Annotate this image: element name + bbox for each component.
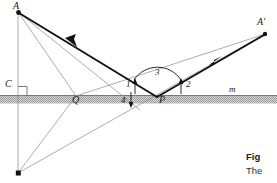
- label-point-P: P: [159, 95, 165, 105]
- mirror-surface-group: [0, 96, 277, 104]
- label-point-Q: Q: [72, 95, 79, 105]
- label-angle-1: 1: [126, 80, 131, 89]
- label-surface-m: m: [229, 85, 236, 94]
- label-point-C: C: [5, 79, 12, 89]
- ray-arrowheads: [65, 34, 222, 65]
- caption-body: The: [246, 166, 262, 177]
- line-Aimage-to-Q: [18, 96, 76, 173]
- right-angle-marker: [18, 87, 27, 96]
- tick-angle-4-head: [129, 102, 134, 108]
- label-angle-2: 2: [186, 80, 191, 89]
- label-angle-3: 3: [155, 68, 160, 77]
- label-angle-4: 4: [121, 96, 126, 105]
- caption-title: Fig: [246, 152, 260, 163]
- label-point-A-prime: A': [257, 17, 265, 27]
- incident-ray-A-to-P: [19, 13, 157, 97]
- label-point-A: A: [13, 1, 19, 11]
- tick-angle-1-head: [133, 78, 138, 84]
- construction-lines: [18, 12, 265, 173]
- tick-angle-2-head: [179, 78, 184, 84]
- figure-container: A A' C Q P m 1 2 3 4 Fig The: [0, 0, 277, 183]
- hatched-band: [0, 96, 277, 104]
- reflected-ray-P-to-Aprime: [157, 35, 264, 97]
- dot-Aprime: [263, 32, 267, 36]
- line-A-to-Q: [18, 12, 76, 96]
- dot-Aimage: [16, 171, 21, 176]
